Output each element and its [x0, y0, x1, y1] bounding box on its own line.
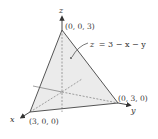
y-axis-label: y: [130, 106, 136, 115]
plane-equation: z = 3 − x − y: [89, 40, 146, 49]
vertex-label-x: (3, 0, 0): [29, 117, 59, 126]
equation-lhs: z: [89, 40, 95, 49]
leader-dot: [70, 57, 72, 59]
vertex-label-y: (0, 3, 0): [118, 94, 148, 103]
y-axis: [118, 103, 129, 105]
z-axis-label: z: [58, 6, 64, 15]
vertex-label-z: (0, 0, 3): [65, 22, 95, 31]
x-axis-label: x: [10, 115, 15, 124]
octant-plane-diagram: z x y (0, 0, 3) (0, 3, 0) (3, 0, 0) z = …: [0, 0, 158, 139]
equation-rhs: = 3 − x − y: [99, 40, 146, 49]
